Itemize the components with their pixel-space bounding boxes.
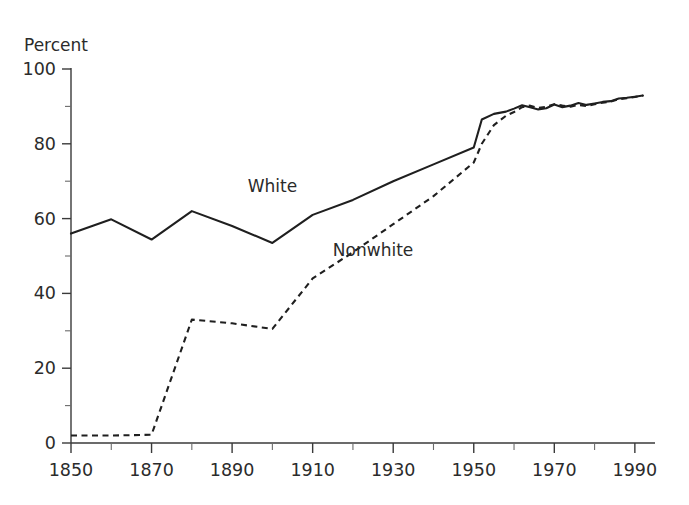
x-tick-label: 1870 <box>129 460 174 480</box>
x-tick-label: 1970 <box>532 460 577 480</box>
series-line-nonwhite <box>71 96 643 436</box>
y-tick-label: 100 <box>23 59 56 79</box>
y-tick-label: 20 <box>34 358 56 378</box>
y-axis-ticks <box>62 69 71 443</box>
x-tick-label: 1950 <box>451 460 496 480</box>
x-tick-label: 1850 <box>49 460 94 480</box>
chart-container: 020406080100 185018701890191019301950197… <box>0 0 689 505</box>
series-label-nonwhite: Nonwhite <box>333 240 413 260</box>
y-tick-label: 40 <box>34 283 56 303</box>
series-line-white <box>71 96 643 243</box>
x-axis-tick-labels: 18501870189019101930195019701990 <box>49 460 657 480</box>
y-tick-label: 60 <box>34 209 56 229</box>
x-axis-ticks <box>71 443 635 453</box>
x-tick-label: 1910 <box>290 460 335 480</box>
literacy-rate-line-chart: 020406080100 185018701890191019301950197… <box>0 0 689 505</box>
x-tick-label: 1990 <box>613 460 658 480</box>
x-tick-label: 1930 <box>371 460 416 480</box>
series-annotations: WhiteNonwhite <box>248 176 414 260</box>
y-tick-label: 80 <box>34 134 56 154</box>
y-axis-title: Percent <box>24 35 88 55</box>
x-tick-label: 1890 <box>210 460 255 480</box>
data-series-group <box>71 96 643 436</box>
y-axis-tick-labels: 020406080100 <box>23 59 56 453</box>
y-tick-label: 0 <box>45 433 56 453</box>
series-label-white: White <box>248 176 297 196</box>
